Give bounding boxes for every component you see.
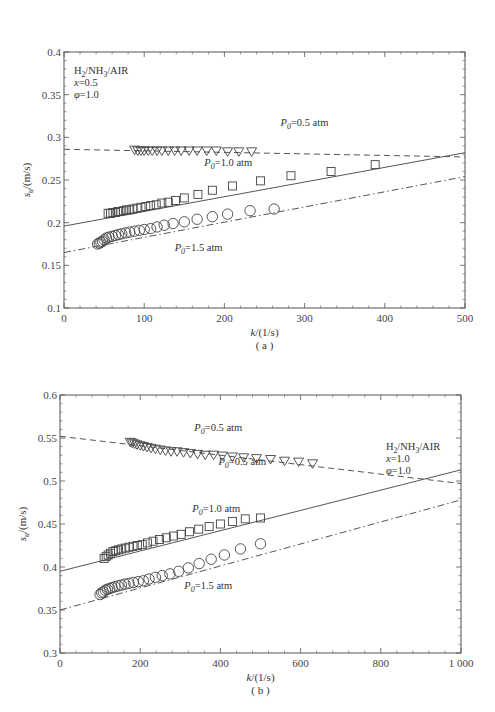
triangle-down-marker bbox=[266, 456, 276, 465]
square-marker bbox=[205, 523, 213, 531]
square-marker bbox=[228, 182, 236, 190]
square-marker bbox=[216, 520, 224, 528]
circle-marker bbox=[245, 206, 255, 216]
series-label: P0=1.0 atm bbox=[203, 157, 252, 171]
x-tick-label: 100 bbox=[136, 312, 153, 324]
x-tick-label: 300 bbox=[296, 312, 313, 324]
y-tick-label: 0.6 bbox=[43, 389, 57, 401]
triangle-down-marker bbox=[247, 148, 257, 157]
y-axis-title: su/(m/s) bbox=[16, 506, 31, 541]
x-tick-label: 500 bbox=[457, 312, 474, 324]
square-marker bbox=[228, 517, 236, 525]
y-tick-label: 0.4 bbox=[47, 46, 61, 58]
square-marker bbox=[194, 191, 202, 199]
x-tick-label: 800 bbox=[373, 657, 390, 669]
circle-marker bbox=[219, 550, 229, 560]
circle-marker bbox=[152, 222, 162, 232]
x-tick-label: 600 bbox=[292, 657, 309, 669]
series-circle bbox=[95, 539, 266, 600]
square-marker bbox=[256, 177, 264, 185]
chart-panel-a: 01002003004005000.10.150.20.250.30.350.4… bbox=[20, 46, 474, 352]
y-tick-label: 0.5 bbox=[43, 475, 57, 487]
x-tick-label: 0 bbox=[57, 657, 63, 669]
square-marker bbox=[180, 194, 188, 202]
y-tick-label: 0.1 bbox=[47, 302, 61, 314]
circle-marker bbox=[222, 209, 232, 219]
square-marker bbox=[208, 186, 216, 194]
square-marker bbox=[186, 528, 194, 536]
circle-marker bbox=[150, 572, 160, 582]
x-tick-label: 400 bbox=[212, 657, 229, 669]
triangle-down-marker bbox=[211, 147, 221, 156]
series-label: P0=1.0 atm bbox=[191, 503, 240, 517]
panel-caption: ( a ) bbox=[256, 339, 274, 352]
square-marker bbox=[177, 530, 185, 538]
plot-frame bbox=[60, 395, 461, 653]
x-tick-label: 0 bbox=[61, 312, 67, 324]
y-tick-label: 0.35 bbox=[38, 604, 58, 616]
circle-marker bbox=[145, 223, 155, 233]
series-label: P0=0.5 atm bbox=[193, 422, 242, 436]
circle-marker bbox=[157, 570, 167, 580]
x-axis-title: k/(1/s) bbox=[246, 671, 274, 684]
fit-line-dashed bbox=[64, 149, 465, 157]
phi-value-label: φ=1.0 bbox=[386, 465, 411, 476]
circle-marker bbox=[206, 554, 216, 564]
y-tick-label: 0.25 bbox=[42, 174, 62, 186]
x-tick-label: 1 000 bbox=[449, 657, 474, 669]
figure: 01002003004005000.10.150.20.250.30.350.4… bbox=[0, 0, 495, 712]
chart-panel-b: 02004006008001 0000.30.350.40.450.50.550… bbox=[16, 389, 474, 697]
triangle-down-marker bbox=[209, 451, 219, 460]
circle-marker bbox=[144, 574, 154, 584]
square-marker bbox=[241, 515, 249, 523]
circle-marker bbox=[235, 544, 245, 554]
y-tick-label: 0.3 bbox=[43, 647, 57, 659]
circle-marker bbox=[255, 539, 265, 549]
y-tick-label: 0.3 bbox=[47, 131, 61, 143]
x-value-label: x=1.0 bbox=[385, 453, 410, 464]
y-tick-label: 0.55 bbox=[38, 432, 58, 444]
fit-line-solid bbox=[60, 470, 461, 571]
y-tick-label: 0.4 bbox=[43, 561, 57, 573]
series-label: P0=0.5 atm bbox=[280, 117, 329, 131]
x-axis-title: k/(1/s) bbox=[250, 326, 278, 339]
square-marker bbox=[143, 539, 151, 547]
x-tick-label: 200 bbox=[132, 657, 149, 669]
phi-value-label: φ=1.0 bbox=[74, 89, 99, 100]
triangle-down-marker bbox=[202, 147, 212, 156]
circle-marker bbox=[173, 566, 183, 576]
circle-marker bbox=[183, 563, 193, 573]
series-label: P0=1.5 atm bbox=[174, 242, 223, 256]
circle-marker bbox=[207, 211, 217, 221]
x-tick-label: 400 bbox=[377, 312, 394, 324]
square-marker bbox=[287, 172, 295, 180]
square-marker bbox=[327, 167, 335, 175]
y-tick-label: 0.2 bbox=[47, 217, 61, 229]
series-square bbox=[104, 161, 379, 218]
square-marker bbox=[371, 161, 379, 169]
square-marker bbox=[195, 525, 203, 533]
triangle-down-marker bbox=[280, 457, 290, 466]
x-tick-label: 200 bbox=[216, 312, 233, 324]
triangle-down-marker bbox=[308, 460, 318, 469]
y-tick-label: 0.35 bbox=[42, 89, 62, 101]
panel-caption: ( b ) bbox=[251, 684, 270, 697]
y-tick-label: 0.15 bbox=[42, 259, 62, 271]
circle-marker bbox=[192, 214, 202, 224]
x-value-label: x=0.5 bbox=[73, 77, 98, 88]
y-tick-label: 0.45 bbox=[38, 518, 58, 530]
series-label: P0=0.5 atm bbox=[217, 456, 266, 470]
series-label: P0=1.5 atm bbox=[183, 580, 232, 594]
plot-area bbox=[64, 146, 465, 252]
circle-marker bbox=[179, 217, 189, 227]
y-axis-title: su/(m/s) bbox=[20, 162, 35, 197]
circle-marker bbox=[194, 558, 204, 568]
